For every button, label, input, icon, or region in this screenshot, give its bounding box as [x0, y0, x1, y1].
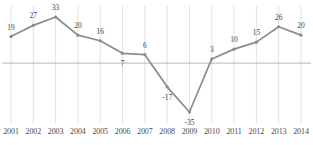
x-tick-label: 2004	[70, 126, 86, 138]
x-tick-label: 2014	[293, 126, 309, 138]
data-point-label: 15	[253, 28, 261, 37]
data-point-label: 6	[143, 40, 147, 49]
data-point-label: 26	[275, 12, 283, 21]
x-tick-label: 2008	[159, 126, 175, 138]
x-tick-label: 2006	[115, 126, 131, 138]
data-point-label: 7	[121, 59, 125, 68]
data-point-label: 3	[210, 44, 214, 53]
x-axis: 2001200220032004200520062007200820092010…	[0, 126, 313, 140]
x-tick-label: 2005	[92, 126, 108, 138]
data-point-label: 27	[30, 11, 38, 20]
x-tick-label: 2013	[271, 126, 287, 138]
data-point-label: 19	[7, 22, 15, 31]
data-point-label: 10	[230, 35, 238, 44]
x-tick-label: 2011	[226, 126, 241, 138]
plot-svg	[0, 6, 313, 123]
x-tick-label: 2002	[25, 126, 41, 138]
x-tick-label: 2009	[182, 126, 198, 138]
x-tick-label: 2012	[249, 126, 265, 138]
line-chart: 192733201676-17-35310152620 200120022003…	[0, 0, 313, 145]
data-point-label: 20	[74, 21, 82, 30]
x-tick-label: 2003	[48, 126, 64, 138]
data-point-label: 33	[52, 2, 60, 11]
data-point-label: 16	[96, 26, 104, 35]
gridlines	[11, 6, 301, 123]
data-point-label: 20	[297, 21, 305, 30]
x-tick-label: 2001	[3, 126, 19, 138]
plot-area: 192733201676-17-35310152620	[0, 6, 313, 123]
x-tick-label: 2007	[137, 126, 153, 138]
x-tick-label: 2010	[204, 126, 220, 138]
data-point-label: -17	[162, 92, 172, 101]
